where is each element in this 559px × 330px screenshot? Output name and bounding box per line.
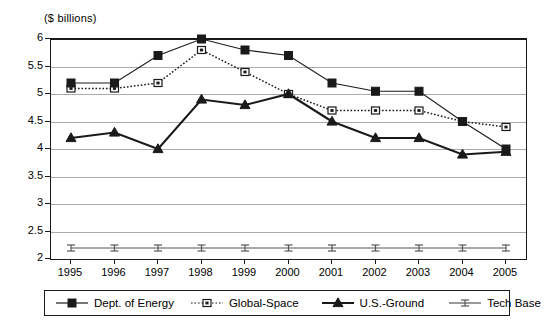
legend-item-global-space[interactable]: Global-Space (190, 296, 299, 310)
data-point (459, 118, 467, 126)
legend-label: Dept. of Energy (94, 297, 174, 309)
x-axis-tick-label: 2005 (483, 266, 527, 278)
legend-swatch-filled-triangle-icon (321, 296, 355, 310)
x-axis-tick (418, 260, 419, 264)
x-axis-tick (462, 260, 463, 264)
y-axis-unit-caption: ($ billions) (44, 12, 97, 24)
data-point-core (417, 109, 420, 112)
data-point (67, 79, 75, 87)
data-point (241, 46, 249, 54)
x-axis-tick (114, 260, 115, 264)
x-axis-tick-label: 1995 (48, 266, 92, 278)
x-axis-tick-label: 2001 (309, 266, 353, 278)
data-point-core (504, 126, 507, 129)
x-axis-tick (331, 260, 332, 264)
legend-marker-core (205, 302, 208, 305)
x-axis-tick (505, 260, 506, 264)
legend-swatch-open-square-icon (190, 296, 224, 310)
data-point (327, 116, 337, 125)
series-tech-base (67, 245, 510, 251)
y-axis-tick-label: 4 (0, 141, 43, 153)
data-point (198, 35, 206, 43)
data-point-core (374, 109, 377, 112)
series-layer (51, 39, 526, 259)
x-axis-tick-label: 1996 (92, 266, 136, 278)
data-point-core (113, 87, 116, 90)
x-axis-tick-label: 1997 (135, 266, 179, 278)
legend-item-tech-base[interactable]: Tech Base (448, 296, 541, 310)
y-axis-tick-label: 5.5 (0, 59, 43, 71)
x-axis-tick-label: 1999 (222, 266, 266, 278)
x-axis-tick (70, 260, 71, 264)
data-point-core (330, 109, 333, 112)
data-point (110, 127, 120, 136)
data-point-core (200, 49, 203, 52)
data-point (372, 87, 380, 95)
legend-swatch-ibeam-icon (448, 296, 482, 310)
y-axis-tick-label: 3 (0, 196, 43, 208)
legend-label: U.S.-Ground (360, 297, 425, 309)
series-line (71, 94, 506, 155)
x-axis-tick (288, 260, 289, 264)
x-axis-tick (201, 260, 202, 264)
y-axis-tick-label: 6 (0, 31, 43, 43)
legend-label: Tech Base (487, 297, 541, 309)
x-axis-tick (244, 260, 245, 264)
x-axis-tick-label: 2003 (396, 266, 440, 278)
chart-legend: Dept. of EnergyGlobal-SpaceU.S.-GroundTe… (44, 290, 510, 316)
legend-item-dept-of-energy[interactable]: Dept. of Energy (55, 296, 174, 310)
x-axis-tick-label: 2004 (440, 266, 484, 278)
legend-swatch-filled-square-icon (55, 296, 89, 310)
plot-area (50, 38, 527, 260)
series-u-s-ground (66, 89, 511, 158)
data-point (328, 79, 336, 87)
data-point-core (156, 82, 159, 85)
y-axis-tick-label: 3.5 (0, 169, 43, 181)
legend-item-u-s-ground[interactable]: U.S.-Ground (321, 296, 425, 310)
x-axis-tick-label: 1998 (179, 266, 223, 278)
data-point (285, 52, 293, 60)
plot-inner (51, 39, 526, 259)
x-axis-tick (157, 260, 158, 264)
y-axis-tick-label: 4.5 (0, 114, 43, 126)
data-point (154, 52, 162, 60)
y-axis-tick-label: 2.5 (0, 224, 43, 236)
legend-label: Global-Space (229, 297, 299, 309)
legend-marker (68, 299, 76, 307)
data-point-core (243, 71, 246, 74)
data-point-core (69, 87, 72, 90)
data-point (197, 94, 207, 103)
y-axis-tick-label: 2 (0, 251, 43, 263)
data-point (111, 79, 119, 87)
data-point (415, 87, 423, 95)
x-axis-tick-label: 2000 (266, 266, 310, 278)
chart-root: ($ billions) 22.533.544.555.56 199519961… (0, 0, 559, 330)
x-axis-tick (375, 260, 376, 264)
x-axis-tick-label: 2002 (353, 266, 397, 278)
y-axis-tick-label: 5 (0, 86, 43, 98)
